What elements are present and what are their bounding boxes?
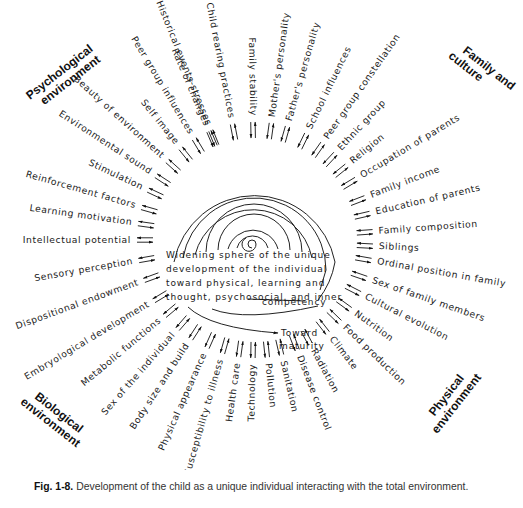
factor-item: Pollution <box>263 341 279 408</box>
factor-label: Pollution <box>263 363 279 409</box>
inward-arrow-icon <box>179 318 189 330</box>
svg-text:competency: competency <box>262 297 327 307</box>
svg-text:development of the individual: development of the individual <box>166 264 327 274</box>
inward-arrow-icon <box>330 309 342 320</box>
outward-arrow-icon <box>351 275 366 280</box>
inward-arrow-icon <box>281 126 285 141</box>
factor-item: Family composition <box>357 218 478 236</box>
factor-item: Siblings <box>357 240 420 253</box>
factor-label: Intellectual potential <box>23 234 131 245</box>
outward-arrow-icon <box>336 302 349 311</box>
inward-arrow-icon <box>166 307 178 317</box>
inward-arrow-icon <box>352 271 367 276</box>
outward-arrow-icon <box>355 216 371 220</box>
outward-arrow-icon <box>153 291 167 299</box>
outward-arrow-icon <box>138 256 154 259</box>
outward-arrow-icon <box>263 342 265 358</box>
inward-arrow-icon <box>241 341 243 357</box>
inward-arrow-icon <box>230 125 233 141</box>
inward-arrow-icon <box>225 339 229 354</box>
factor-label: Sanitation <box>279 359 302 413</box>
inward-arrow-icon <box>323 152 334 164</box>
inward-arrow-icon <box>320 319 330 332</box>
inward-arrow-icon <box>145 277 160 282</box>
factor-item: Family stability <box>247 37 259 138</box>
factor-label: Family composition <box>378 218 478 236</box>
environment-diagram: Widening sphere of the unique developmen… <box>0 0 523 470</box>
figure-caption: Fig. 1-8. Development of the child as a … <box>34 481 468 492</box>
outward-arrow-icon <box>357 248 373 249</box>
section-biological: Biological environment <box>18 384 91 450</box>
outward-arrow-icon <box>326 155 337 167</box>
outward-arrow-icon <box>236 341 238 357</box>
caption-text: Development of the child as a unique ind… <box>76 481 468 492</box>
inward-arrow-icon <box>141 210 156 214</box>
inward-arrow-icon <box>356 256 372 259</box>
figure-number: Fig. 1-8. <box>34 481 73 492</box>
factor-label: Technology <box>245 364 257 423</box>
inward-arrow-icon <box>138 226 154 228</box>
outward-arrow-icon <box>176 316 186 328</box>
inward-arrow-icon <box>166 163 178 174</box>
inward-arrow-icon <box>357 230 373 231</box>
inward-arrow-icon <box>333 164 345 174</box>
outward-arrow-icon <box>220 337 224 352</box>
inward-arrow-icon <box>341 177 355 185</box>
outward-arrow-icon <box>163 304 175 314</box>
svg-text:Widening sphere of the unique: Widening sphere of the unique <box>166 250 331 260</box>
toward-label: Toward <box>280 328 318 338</box>
outward-arrow-icon <box>235 124 238 140</box>
outward-arrow-icon <box>138 221 154 223</box>
section-psychological: Psychological environment <box>23 42 103 113</box>
inward-arrow-icon <box>192 140 200 154</box>
factor-item: Intellectual potential <box>23 234 153 245</box>
outward-arrow-icon <box>143 273 158 278</box>
outward-arrow-icon <box>355 260 371 263</box>
inward-arrow-icon <box>193 327 202 340</box>
inward-arrow-icon <box>155 178 168 187</box>
svg-text:toward physical, learning and: toward physical, learning and <box>166 278 325 288</box>
inward-arrow-icon <box>267 123 269 139</box>
inward-arrow-icon <box>268 341 270 357</box>
outward-arrow-icon <box>351 200 366 206</box>
section-family-culture: Family and culture <box>446 38 518 103</box>
outward-arrow-icon <box>336 167 348 177</box>
factor-item: Technology <box>245 342 257 423</box>
outward-arrow-icon <box>315 145 324 158</box>
outward-arrow-icon <box>196 138 204 152</box>
inward-arrow-icon <box>354 211 370 215</box>
factor-label: Sensory perception <box>33 255 133 283</box>
center-description: Widening sphere of the unique developmen… <box>166 250 342 351</box>
factor-label: Health care <box>223 362 242 423</box>
outward-arrow-icon <box>189 324 198 337</box>
inward-arrow-icon <box>179 150 189 162</box>
outward-arrow-icon <box>271 123 273 139</box>
factor-label: Child rearing practices <box>204 2 237 120</box>
outward-arrow-icon <box>182 147 192 159</box>
factor-label: Family stability <box>247 37 259 116</box>
inward-arrow-icon <box>312 142 321 155</box>
outward-arrow-icon <box>285 127 289 142</box>
factor-item: Health care <box>223 341 243 423</box>
section-physical: Physical environment <box>418 363 484 436</box>
outward-arrow-icon <box>157 174 170 183</box>
outward-arrow-icon <box>344 181 358 189</box>
inward-arrow-icon <box>139 260 155 263</box>
inward-arrow-icon <box>357 243 373 244</box>
inward-arrow-icon <box>349 196 364 202</box>
factor-label: Learning motivation <box>29 202 133 227</box>
factor-label: Siblings <box>379 240 420 253</box>
outward-arrow-icon <box>357 234 373 235</box>
outward-arrow-icon <box>169 159 181 170</box>
inward-arrow-icon <box>339 298 352 307</box>
outward-arrow-icon <box>327 312 339 323</box>
outward-arrow-icon <box>142 205 157 209</box>
